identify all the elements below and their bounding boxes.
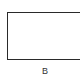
shape-label: B <box>40 66 50 76</box>
rectangle-shape <box>7 12 80 60</box>
